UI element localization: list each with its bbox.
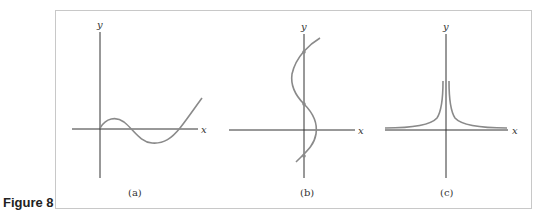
panel-caption: (c) [440,187,454,198]
curve-right [449,81,507,128]
panel-caption: (b) [300,187,314,198]
panel-c: y x (c) [385,21,518,198]
curve [100,98,202,143]
y-axis-label: y [300,21,307,32]
intersection-point [302,102,306,106]
x-axis-label: x [512,125,518,136]
y-axis-label: y [96,19,103,30]
panel-caption: (a) [128,187,142,198]
figure-graphics: y x (a) y x (b) y x (c) [0,0,548,221]
y-axis-label: y [442,21,449,32]
curve-left [385,81,443,128]
intersection-point [302,154,306,158]
panel-b: y x (b) [229,21,364,198]
curve [292,38,320,162]
x-axis-label: x [358,125,364,136]
intersection-point [302,50,306,54]
panel-a: y x (a) [72,19,207,198]
x-axis-label: x [201,124,207,135]
